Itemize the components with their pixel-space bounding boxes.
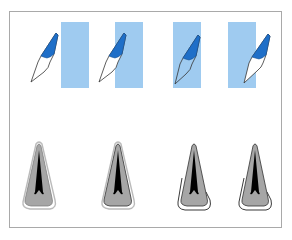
incisor-sketch-4 xyxy=(243,33,275,85)
tooth-section-3 xyxy=(175,140,213,212)
tooth-section-4 xyxy=(236,140,274,212)
tooth-section-1 xyxy=(20,140,58,212)
reduction-band-1 xyxy=(61,22,89,88)
incisor-sketch-1 xyxy=(30,32,62,84)
incisor-sketch-2 xyxy=(98,32,130,84)
incisor-sketch-3 xyxy=(174,34,206,86)
tooth-section-2 xyxy=(99,140,137,212)
